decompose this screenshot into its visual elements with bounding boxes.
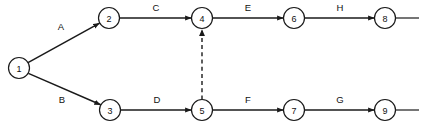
node-label-9: 9 — [382, 106, 387, 116]
node-3[interactable]: 3 — [100, 100, 121, 121]
tail-lines-layer — [396, 18, 420, 110]
node-label-3: 3 — [107, 106, 112, 116]
node-6[interactable]: 6 — [284, 8, 305, 29]
node-1[interactable]: 1 — [9, 58, 30, 79]
node-label-5: 5 — [199, 106, 204, 116]
edge-label-h: H — [337, 2, 344, 13]
edge-label-f: F — [245, 94, 251, 105]
edge-label-c: C — [153, 2, 160, 13]
node-label-2: 2 — [106, 14, 111, 24]
node-label-8: 8 — [382, 14, 387, 24]
node-label-1: 1 — [16, 64, 21, 74]
network-diagram-canvas: 123456789 ABCDEFGH — [0, 0, 424, 128]
node-5[interactable]: 5 — [192, 100, 213, 121]
node-label-7: 7 — [291, 106, 296, 116]
node-9[interactable]: 9 — [375, 100, 396, 121]
node-label-6: 6 — [291, 14, 296, 24]
node-7[interactable]: 7 — [284, 100, 305, 121]
node-2[interactable]: 2 — [99, 8, 120, 29]
network-diagram: 123456789 ABCDEFGH — [0, 0, 424, 128]
edges-layer — [28, 18, 375, 110]
edge-label-b: B — [59, 94, 65, 105]
node-label-4: 4 — [199, 14, 204, 24]
node-8[interactable]: 8 — [375, 8, 396, 29]
edge-label-g: G — [336, 94, 343, 105]
node-4[interactable]: 4 — [192, 8, 213, 29]
edge-label-a: A — [58, 21, 65, 32]
edge-label-d: D — [154, 94, 161, 105]
edge-label-e: E — [245, 2, 251, 13]
